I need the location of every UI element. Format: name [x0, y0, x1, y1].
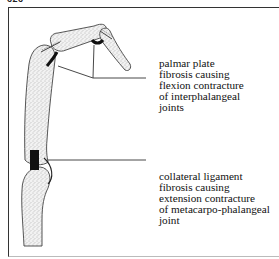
metacarpal-bone [22, 167, 50, 246]
metacarpophalangeal-label: collateral ligament fibrosis causing ext… [159, 171, 270, 226]
leader-lines-interphalangeal [58, 45, 146, 78]
interphalangeal-label: palmar plate fibrosis causing flexion co… [159, 58, 244, 113]
middle-phalanx-bone [50, 24, 106, 51]
label-line: joints [159, 102, 244, 113]
label-line: joint [159, 215, 270, 226]
